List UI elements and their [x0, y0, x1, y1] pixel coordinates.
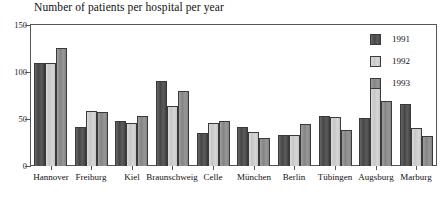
x-tick-label-braunschweig: Braunschweig	[146, 172, 198, 182]
bar-group-mnchen	[237, 25, 270, 166]
legend-item-1991: 1991	[370, 28, 432, 50]
bar-hannover-1992	[45, 63, 56, 166]
x-tick-label-tbingen: Tübingen	[318, 172, 353, 182]
bar-hannover-1993	[56, 48, 67, 166]
bar-group-celle	[197, 25, 230, 166]
bar-group-freiburg	[75, 25, 108, 166]
bar-berlin-1992	[289, 135, 300, 166]
bar-celle-1993	[219, 121, 230, 166]
bar-augsburg-1992	[370, 82, 381, 166]
bar-group-tbingen	[319, 25, 352, 166]
bar-freiburg-1991	[75, 127, 86, 166]
bar-berlin-1991	[278, 135, 289, 166]
bar-kiel-1993	[137, 116, 148, 166]
bar-augsburg-1993	[381, 101, 392, 166]
y-axis: 150100500	[0, 0, 27, 200]
x-tick-mark-4	[213, 166, 214, 170]
x-tick-mark-2	[132, 166, 133, 170]
x-tick-mark-7	[335, 166, 336, 170]
bar-braunschweig-1993	[178, 91, 189, 166]
legend-item-1992: 1992	[370, 50, 432, 72]
bar-group-braunschweig	[156, 25, 189, 166]
x-tick-mark-9	[416, 166, 417, 170]
x-tick-label-augsburg: Augsburg	[358, 172, 393, 182]
x-tick-mark-1	[91, 166, 92, 170]
bar-mnchen-1991	[237, 127, 248, 166]
legend-swatch-1992	[370, 56, 381, 67]
x-tick-label-hannover: Hannover	[33, 172, 69, 182]
x-tick-label-berlin: Berlin	[283, 172, 306, 182]
bar-marburg-1993	[422, 136, 433, 166]
bar-celle-1991	[197, 133, 208, 166]
x-tick-mark-6	[294, 166, 295, 170]
bar-group-kiel	[115, 25, 148, 166]
x-tick-mark-5	[254, 166, 255, 170]
y-tick-label-0: 0	[3, 161, 27, 171]
bar-freiburg-1992	[86, 111, 97, 166]
chart-legend: 199119921993	[370, 28, 432, 94]
bar-tbingen-1992	[330, 117, 341, 166]
x-axis-ticks	[31, 166, 436, 171]
bar-tbingen-1993	[341, 130, 352, 166]
bar-marburg-1991	[400, 104, 411, 166]
legend-label-1991: 1991	[392, 34, 410, 44]
legend-swatch-1993	[370, 78, 381, 89]
y-tick-mark-150	[25, 25, 31, 26]
bar-berlin-1993	[300, 124, 311, 166]
x-tick-label-mnchen: München	[237, 172, 271, 182]
bar-group-berlin	[278, 25, 311, 166]
bar-hannover-1991	[34, 63, 45, 166]
bar-chart: Number of patients per hospital per year…	[0, 0, 447, 200]
y-tick-label-50: 50	[3, 114, 27, 124]
legend-item-1993: 1993	[370, 72, 432, 94]
chart-title: Number of patients per hospital per year	[34, 1, 224, 13]
bar-freiburg-1993	[97, 112, 108, 166]
x-axis-labels: HannoverFreiburgKielBraunschweigCelleMün…	[31, 172, 436, 188]
bar-celle-1992	[208, 123, 219, 166]
x-tick-mark-8	[376, 166, 377, 170]
legend-label-1992: 1992	[392, 56, 410, 66]
y-tick-label-150: 150	[3, 20, 27, 30]
y-tick-mark-0	[25, 166, 31, 167]
y-tick-mark-50	[25, 119, 31, 120]
x-tick-label-kiel: Kiel	[124, 172, 140, 182]
bar-mnchen-1993	[259, 138, 270, 166]
x-tick-label-freiburg: Freiburg	[76, 172, 107, 182]
bar-braunschweig-1991	[156, 81, 167, 166]
bar-kiel-1992	[126, 123, 137, 166]
legend-swatch-1991	[370, 34, 381, 45]
x-tick-mark-3	[172, 166, 173, 170]
bar-group-hannover	[34, 25, 67, 166]
y-tick-label-100: 100	[3, 67, 27, 77]
bar-mnchen-1992	[248, 132, 259, 166]
bar-marburg-1992	[411, 128, 422, 166]
bar-braunschweig-1992	[167, 106, 178, 166]
y-tick-mark-100	[25, 72, 31, 73]
x-tick-mark-0	[51, 166, 52, 170]
legend-label-1993: 1993	[392, 78, 410, 88]
x-tick-label-marburg: Marburg	[400, 172, 431, 182]
x-tick-label-celle: Celle	[204, 172, 223, 182]
bar-tbingen-1991	[319, 116, 330, 166]
bar-augsburg-1991	[359, 118, 370, 166]
bar-kiel-1991	[115, 121, 126, 166]
